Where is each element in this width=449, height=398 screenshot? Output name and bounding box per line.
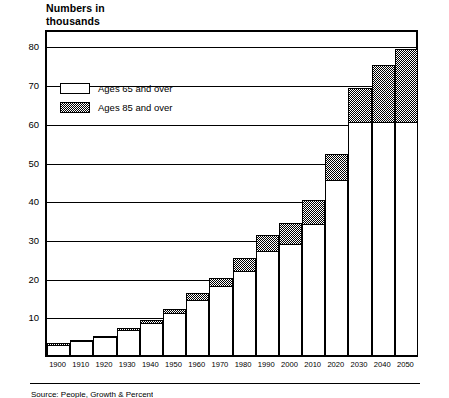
bar-segment-65-1930 <box>118 328 139 355</box>
bar-2010 <box>302 200 325 355</box>
bar-segment-85-1930 <box>118 328 139 331</box>
bar-segment-65-1920 <box>94 336 115 355</box>
legend-label-85: Ages 85 and over <box>98 102 172 113</box>
bar-2000 <box>279 223 302 355</box>
chart-legend: Ages 65 and over Ages 85 and over <box>60 80 210 118</box>
x-tick-label-2030: 2030 <box>351 360 368 369</box>
x-tick-label-1960: 1960 <box>188 360 205 369</box>
bar-segment-85-1990 <box>257 235 278 252</box>
bar-segment-85-2000 <box>280 223 301 244</box>
y-tick-label-50: 50 <box>28 157 39 168</box>
bar-1990 <box>256 235 279 355</box>
x-axis-labels: 1900191019201930194019501960197019801990… <box>45 360 418 374</box>
chart-title: Numbers inthousands <box>46 2 105 28</box>
bar-2050 <box>395 49 418 355</box>
y-tick-label-20: 20 <box>28 273 39 284</box>
category-tick-1930 <box>117 328 118 355</box>
x-tick-label-2040: 2040 <box>374 360 391 369</box>
category-tick-1910 <box>70 340 71 355</box>
x-tick-label-1910: 1910 <box>72 360 89 369</box>
legend-swatch-65-icon <box>60 83 90 94</box>
bar-1960 <box>186 293 209 355</box>
category-tick-1980 <box>233 258 234 355</box>
category-tick-1940 <box>140 320 141 355</box>
x-tick-label-2020: 2020 <box>327 360 344 369</box>
bar-segment-65-1950 <box>164 309 185 355</box>
bar-1900 <box>47 343 70 355</box>
category-tick-2020 <box>325 154 326 355</box>
y-tick-label-10: 10 <box>28 312 39 323</box>
bar-segment-85-2010 <box>303 200 324 225</box>
chart-title-line1: Numbers in <box>46 2 105 14</box>
x-tick-label-2000: 2000 <box>281 360 298 369</box>
y-tick-label-70: 70 <box>28 80 39 91</box>
bar-segment-65-1970 <box>210 278 231 355</box>
category-tick-1950 <box>163 309 164 355</box>
category-tick-1900 <box>47 343 48 355</box>
category-tick-2040 <box>372 65 373 355</box>
x-tick-label-1920: 1920 <box>96 360 113 369</box>
category-tick-2000 <box>279 223 280 355</box>
bar-segment-85-1910 <box>71 340 92 343</box>
bar-segment-65-1990 <box>257 235 278 355</box>
bar-segment-85-1960 <box>187 293 208 301</box>
footer-source: Source: People, Growth & Percent <box>31 390 153 398</box>
bar-1950 <box>163 309 186 355</box>
x-tick-label-2010: 2010 <box>304 360 321 369</box>
bar-segment-85-1980 <box>234 258 255 272</box>
bar-1980 <box>233 258 256 355</box>
bar-segment-85-2030 <box>349 88 370 123</box>
bar-segment-85-1950 <box>164 309 185 315</box>
x-tick-label-1950: 1950 <box>165 360 182 369</box>
x-tick-label-1970: 1970 <box>211 360 228 369</box>
bar-1910 <box>70 340 93 355</box>
x-tick-label-1940: 1940 <box>142 360 159 369</box>
bar-1940 <box>140 320 163 355</box>
bar-segment-85-2050 <box>396 49 417 123</box>
bar-segment-85-2020 <box>326 154 347 181</box>
legend-item-65: Ages 65 and over <box>60 80 210 96</box>
y-axis-labels: 1020304050607080 <box>0 0 45 398</box>
category-tick-1970 <box>209 278 210 355</box>
x-tick-label-2050: 2050 <box>397 360 414 369</box>
bar-segment-85-1920 <box>94 336 115 339</box>
category-tick-1990 <box>256 235 257 355</box>
footer-divider <box>30 383 420 384</box>
bar-segment-85-1940 <box>141 320 162 324</box>
bar-segment-85-1970 <box>210 278 231 288</box>
legend-label-65: Ages 65 and over <box>98 83 172 94</box>
bar-segment-65-1980 <box>234 258 255 355</box>
x-tick-label-1930: 1930 <box>119 360 136 369</box>
bar-segment-65-1960 <box>187 293 208 355</box>
bar-1920 <box>93 336 116 355</box>
x-tick-label-1980: 1980 <box>235 360 252 369</box>
chart-page: Numbers inthousands 1020304050607080 190… <box>0 0 449 398</box>
bar-1930 <box>117 328 140 355</box>
y-tick-label-40: 40 <box>28 196 39 207</box>
bar-segment-65-1940 <box>141 320 162 355</box>
chart-title-line2: thousands <box>46 15 100 27</box>
bar-2020 <box>325 154 348 355</box>
category-tick-2050 <box>395 49 396 355</box>
bar-segment-65-2020 <box>326 154 347 355</box>
y-tick-label-80: 80 <box>28 41 39 52</box>
y-tick-label-30: 30 <box>28 234 39 245</box>
legend-swatch-85-icon <box>60 102 90 113</box>
bar-segment-85-2040 <box>373 65 394 123</box>
y-tick-label-60: 60 <box>28 118 39 129</box>
x-tick-label-1900: 1900 <box>49 360 66 369</box>
category-tick-2030 <box>348 88 349 355</box>
bar-segment-85-1900 <box>48 343 69 346</box>
bar-segment-65-2030 <box>349 88 370 355</box>
category-tick-2010 <box>302 200 303 355</box>
bar-2040 <box>372 65 395 355</box>
x-tick-label-1990: 1990 <box>258 360 275 369</box>
category-tick-1920 <box>93 336 94 355</box>
bar-1970 <box>209 278 232 355</box>
legend-item-85: Ages 85 and over <box>60 99 210 115</box>
bar-2030 <box>348 88 371 355</box>
category-tick-1960 <box>186 293 187 355</box>
